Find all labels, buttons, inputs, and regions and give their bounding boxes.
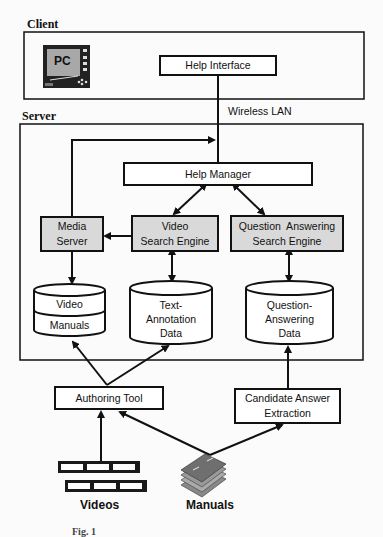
video-search-engine-node: Video Search Engine xyxy=(131,215,219,252)
help-interface-node: Help Interface xyxy=(159,55,277,76)
video-search-engine-label-line1: Video xyxy=(162,219,189,234)
video-search-engine-label-line2: Search Engine xyxy=(141,234,210,249)
authoring-to-video-manuals-arrow xyxy=(73,342,107,385)
manuals-to-candidate-arrow xyxy=(210,425,282,455)
candidate-answer-extraction-node: Candidate Answer Extraction xyxy=(234,388,341,424)
text-annotation-line3: Data xyxy=(130,326,212,340)
qa-data-line2: Answering xyxy=(246,312,333,326)
media-server-node: Media Server xyxy=(40,216,104,252)
manuals-label: Manuals xyxy=(186,498,234,512)
media-server-label-line1: Media xyxy=(58,219,87,234)
client-group-label: Client xyxy=(27,17,58,32)
videos-label: Videos xyxy=(80,498,119,512)
server-group-label: Server xyxy=(22,109,56,124)
authoring-to-text-annotation-arrow xyxy=(107,346,168,385)
media-server-label-line2: Server xyxy=(57,234,88,249)
pc-label: PC xyxy=(54,54,71,68)
text-annotation-line1: Text- xyxy=(130,298,212,312)
manager-qa-engine-arrow xyxy=(236,187,264,214)
authoring-tool-node: Authoring Tool xyxy=(54,386,164,410)
qa-search-engine-label-line1: Question Answering xyxy=(239,219,335,234)
text-annotation-line2: Annotation xyxy=(130,312,212,326)
video-db-label: Video xyxy=(34,297,105,311)
manuals-to-authoring-arrow xyxy=(120,412,210,455)
qa-data-line1: Question- xyxy=(246,298,333,312)
manuals-db-label: Manuals xyxy=(34,318,105,332)
qa-data-line3: Data xyxy=(246,326,333,340)
authoring-tool-label: Authoring Tool xyxy=(76,391,143,406)
candidate-answer-label-line2: Extraction xyxy=(264,406,311,421)
qa-search-engine-node: Question Answering Search Engine xyxy=(230,215,344,252)
candidate-answer-label-line1: Candidate Answer xyxy=(245,391,330,406)
videos-icon xyxy=(58,461,147,492)
wireless-lan-label: Wireless LAN xyxy=(228,105,292,117)
qa-data-db-label: Question- Answering Data xyxy=(246,298,333,340)
help-manager-label: Help Manager xyxy=(185,167,251,182)
qa-search-engine-label-line2: Search Engine xyxy=(253,234,322,249)
figure-caption: Fig. 1 xyxy=(72,526,96,537)
help-interface-label: Help Interface xyxy=(185,58,250,73)
manuals-icon xyxy=(181,454,226,497)
text-annotation-db-label: Text- Annotation Data xyxy=(130,298,212,340)
help-manager-node: Help Manager xyxy=(123,162,313,186)
manager-video-engine-arrow xyxy=(174,187,203,214)
